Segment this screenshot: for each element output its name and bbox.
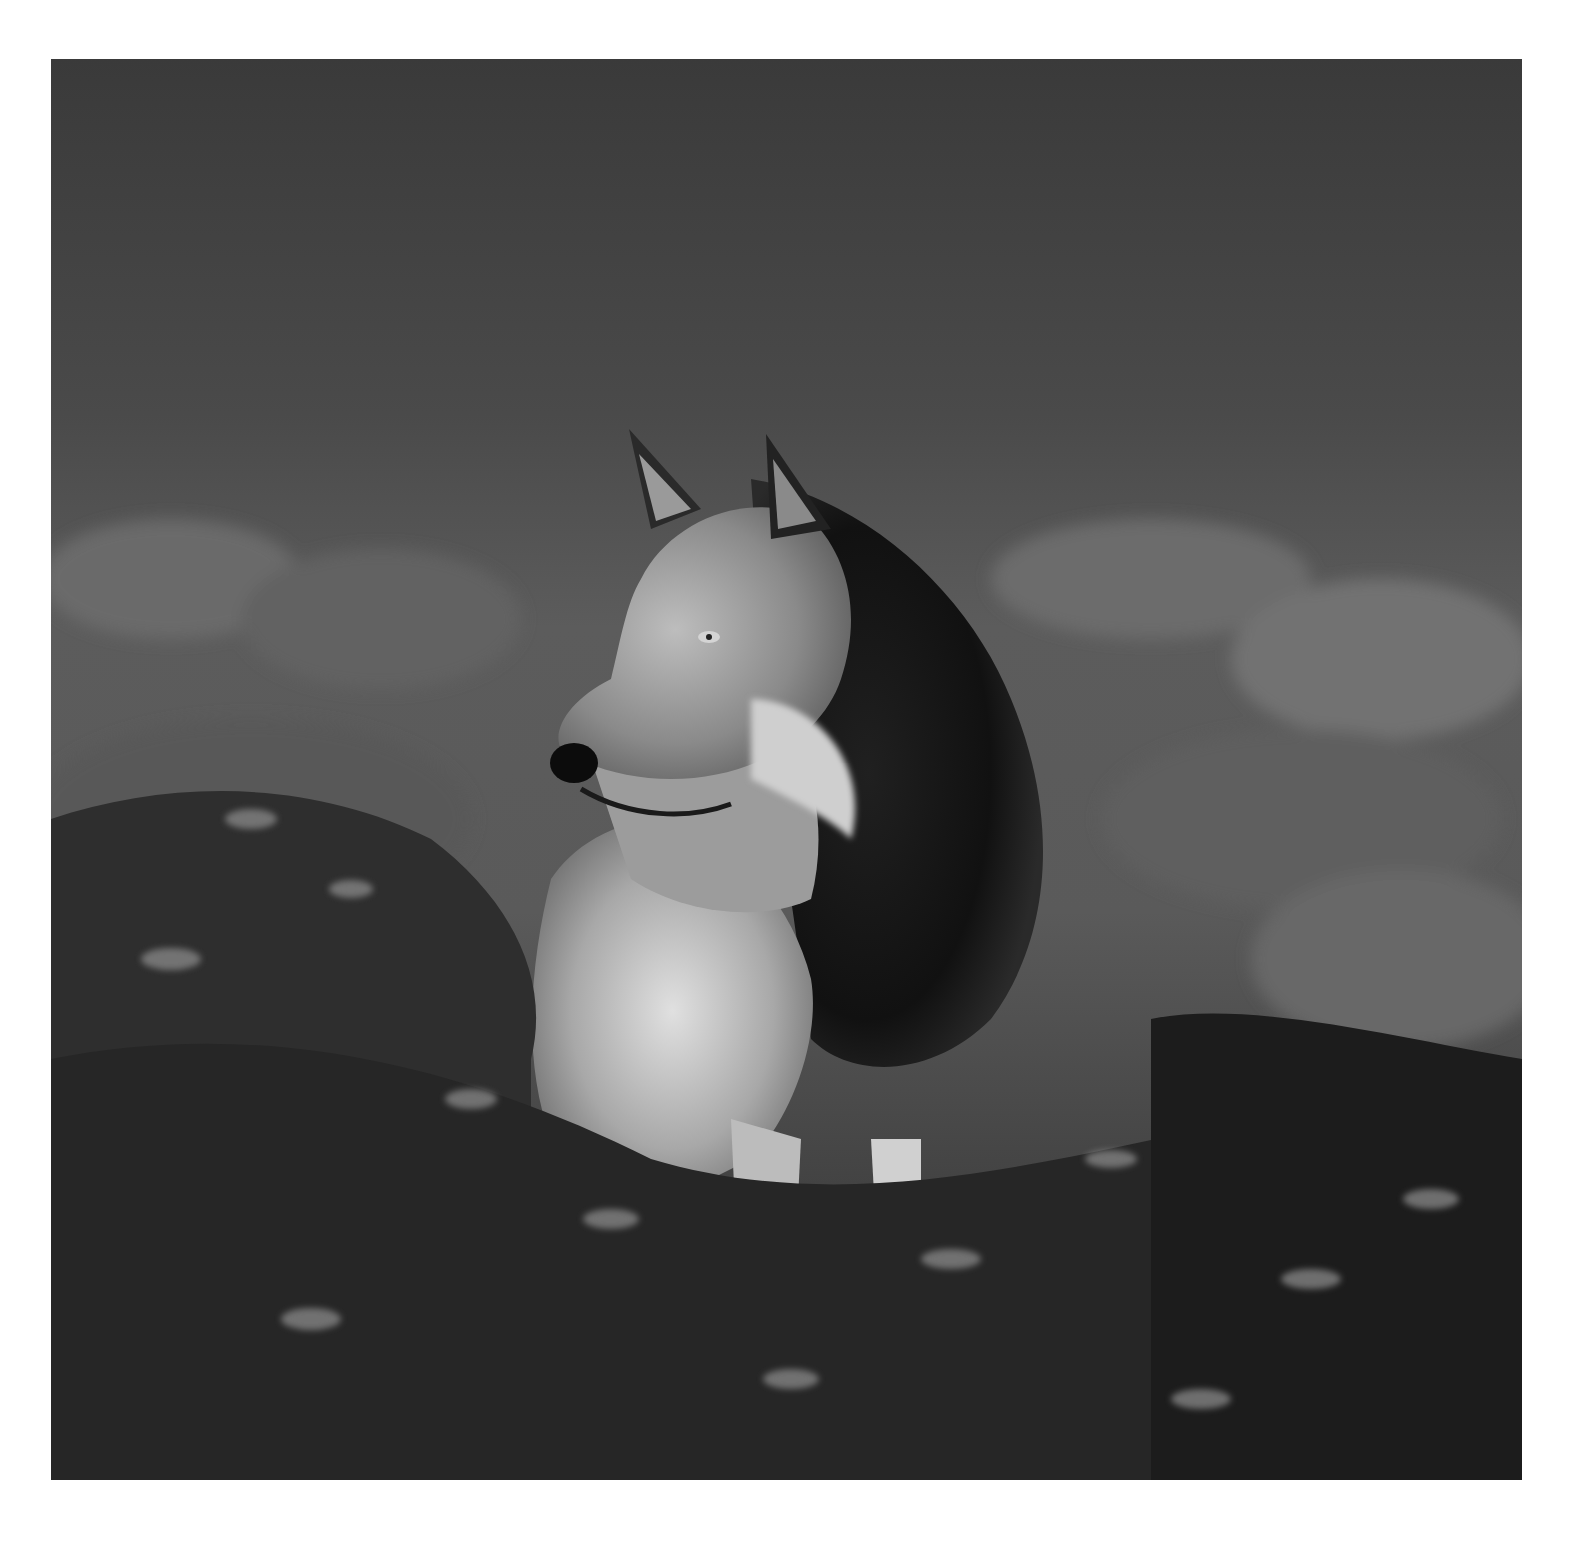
wolf-photograph bbox=[51, 59, 1522, 1480]
wolf-scene bbox=[51, 59, 1522, 1480]
